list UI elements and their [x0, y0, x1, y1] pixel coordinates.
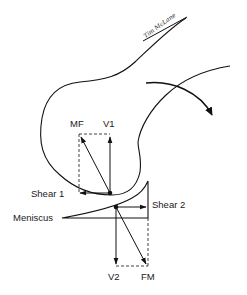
- label-v2: V2: [108, 272, 120, 282]
- lower-vectors: [114, 205, 148, 266]
- upper-contact-point: [108, 191, 113, 196]
- label-mf: MF: [70, 119, 84, 129]
- label-fm: FM: [141, 272, 155, 282]
- label-meniscus: Meniscus: [13, 213, 53, 223]
- lower-contact-point: [114, 205, 119, 210]
- fm-vector: [116, 207, 146, 264]
- knee-force-diagram: [0, 0, 247, 295]
- meniscus-wedge: [62, 181, 148, 218]
- femur-outline: [41, 18, 230, 195]
- rotation-arrow: [146, 83, 212, 115]
- label-shear2: Shear 2: [152, 200, 185, 210]
- label-v1: V1: [103, 119, 115, 129]
- mf-vector: [81, 137, 110, 193]
- label-shear1: Shear 1: [31, 189, 64, 199]
- upper-vectors: [80, 137, 112, 195]
